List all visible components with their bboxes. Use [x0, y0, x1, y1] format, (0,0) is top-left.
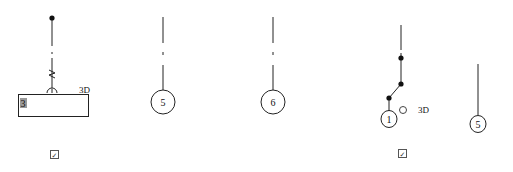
group-1: 3 3D ✓ [19, 15, 91, 159]
badge-label: 3 [21, 98, 26, 109]
component-box[interactable] [19, 95, 89, 117]
break-symbol-icon [49, 70, 55, 78]
group-2: 5 [151, 17, 175, 114]
terminal-dot-icon[interactable] [398, 55, 403, 60]
group-3: 6 [261, 17, 285, 114]
check-icon: ✓ [52, 152, 58, 160]
terminal-dot-icon[interactable] [49, 15, 54, 20]
node-label: 5 [161, 97, 166, 108]
open-terminal-icon [400, 107, 407, 114]
group-4: 1 3D ✓ [381, 25, 430, 159]
check-icon: ✓ [400, 151, 406, 159]
group-5: 5 [470, 64, 486, 133]
node-label: 5 [476, 119, 481, 130]
node-label: 6 [271, 97, 276, 108]
tag-label: 3D [79, 85, 91, 95]
terminal-dot-icon[interactable] [386, 95, 391, 100]
switch-arm [389, 84, 401, 98]
diagram-canvas: 3 3D ✓ 5 6 1 3D ✓ 5 [0, 0, 513, 172]
terminal-dot-icon[interactable] [398, 81, 403, 86]
tag-label: 3D [418, 105, 430, 115]
node-label: 1 [387, 114, 392, 125]
